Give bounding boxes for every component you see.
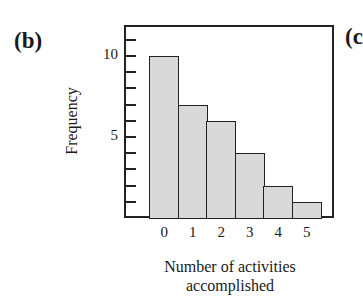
x-tick-label: 0 — [154, 224, 174, 241]
y-tick — [124, 168, 136, 170]
x-tick-label: 5 — [297, 224, 317, 241]
histogram-bar — [263, 186, 293, 219]
y-tick — [124, 152, 136, 154]
histogram-bar — [235, 153, 265, 219]
y-tick — [124, 55, 136, 57]
x-axis-label-line-2: accomplished — [135, 276, 325, 295]
x-tick-label: 4 — [268, 224, 288, 241]
y-tick-label: 5 — [88, 127, 118, 144]
y-axis-label: Frequency — [63, 71, 81, 171]
next-panel-label: (c — [345, 24, 363, 50]
y-tick — [124, 104, 136, 106]
x-tick-label: 2 — [211, 224, 231, 241]
histogram-bar — [149, 56, 179, 219]
x-tick-label: 3 — [240, 224, 260, 241]
y-tick-label: 10 — [88, 46, 118, 63]
x-axis-label-line-1: Number of activities — [135, 257, 325, 276]
y-tick — [124, 71, 136, 73]
y-tick — [124, 39, 136, 41]
histogram-bar — [292, 202, 322, 219]
panel-label: (b) — [14, 28, 42, 54]
histogram-bar — [178, 105, 208, 219]
y-tick — [124, 185, 136, 187]
y-tick — [124, 87, 136, 89]
y-tick — [124, 201, 136, 203]
histogram-bar — [206, 121, 236, 219]
x-tick-label: 1 — [183, 224, 203, 241]
y-tick — [124, 136, 136, 138]
y-tick — [124, 120, 136, 122]
x-axis-label: Number of activities accomplished — [135, 257, 325, 295]
